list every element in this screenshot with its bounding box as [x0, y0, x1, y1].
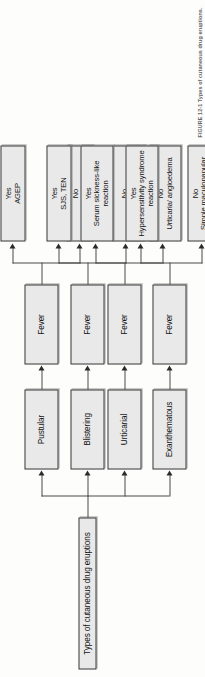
arrow-to-urticarial	[121, 470, 127, 475]
arrow-to-exanthematous	[166, 470, 172, 475]
root-node: Types of cutaneous drug eruptions	[78, 517, 96, 669]
category-node-exanthematous: Exanthematous	[152, 389, 186, 469]
arrow-yes-pustular	[9, 243, 15, 248]
fever-yes-line-pustular	[12, 247, 13, 263]
outcome-node-exanthematous-no: No Simple maculopapular eruption	[187, 145, 205, 241]
decision-label-fever-urticarial: Fever	[119, 314, 128, 334]
fever-yes-line-blistering	[58, 247, 59, 263]
fever-yes-line-urticarial	[95, 247, 96, 263]
category-node-blistering: Blistering	[70, 389, 104, 469]
fever-split-exanthematous	[140, 262, 202, 263]
arrow-to-pustular	[38, 470, 44, 475]
fever-no-line-urticarial	[162, 247, 163, 263]
fever-out-exanthematous	[169, 262, 170, 284]
outcome-text-blistering-yes: SJS, TEN	[59, 177, 68, 209]
arrow-yes-urticarial	[92, 243, 98, 248]
arrow-no-pustular	[76, 243, 82, 248]
root-trunk-horizontal	[87, 495, 88, 517]
arrow-yes-exanthematous	[137, 243, 143, 248]
fever-out-urticarial	[124, 262, 125, 284]
outcome-answer-pustular-yes: Yes	[4, 187, 13, 199]
category-label-exanthematous: Exanthematous	[164, 401, 173, 457]
decision-node-fever-blistering: Fever	[70, 284, 104, 364]
outcome-text-exanthematous-no: Simple maculopapular eruption	[199, 148, 205, 238]
arrow-to-fever-blistering	[84, 365, 90, 370]
connector-urticarial-to-fever	[124, 369, 125, 389]
root-node-label: Types of cutaneous drug eruptions	[82, 532, 91, 654]
arrow-to-fever-exanthematous	[166, 365, 172, 370]
root-trunk-vertical	[41, 495, 169, 496]
arrow-yes-blistering	[55, 243, 61, 248]
outcome-text-urticarial-no: Urticaria/ angioedema	[165, 157, 174, 229]
figure-caption: FIGURE 12-1 Types of cutaneous drug erup…	[196, 7, 202, 137]
outcome-node-blistering-yes: Yes SJS, TEN	[46, 145, 71, 241]
decision-label-fever-blistering: Fever	[82, 314, 91, 334]
arrow-no-blistering	[122, 243, 128, 248]
outcome-node-urticarial-yes: Yes Serum sickness-like reaction	[80, 145, 113, 241]
category-label-blistering: Blistering	[82, 413, 91, 446]
decision-node-fever-exanthematous: Fever	[152, 284, 186, 364]
category-label-urticarial: Urticarial	[119, 413, 128, 444]
branch-stub-urticarial	[124, 474, 125, 496]
fever-yes-line-exanthematous	[140, 247, 141, 263]
outcome-text-pustular-yes: AGEP	[13, 183, 22, 204]
connector-exanthematous-to-fever	[169, 369, 170, 389]
outcome-answer-blistering-yes: Yes	[50, 187, 59, 199]
fever-no-line-exanthematous	[201, 247, 202, 263]
category-node-urticarial: Urticarial	[107, 389, 141, 469]
decision-node-fever-urticarial: Fever	[107, 284, 141, 364]
category-label-pustular: Pustular	[36, 414, 45, 443]
arrow-no-exanthematous	[198, 243, 204, 248]
category-node-pustular: Pustular	[24, 389, 58, 469]
outcome-answer-pustular-no: No	[71, 188, 80, 198]
fever-no-line-blistering	[125, 247, 126, 263]
branch-stub-exanthematous	[169, 474, 170, 496]
arrow-no-urticarial	[159, 243, 165, 248]
decision-label-fever-pustular: Fever	[36, 314, 45, 334]
outcome-text-urticarial-yes: Serum sickness-like reaction	[92, 148, 109, 238]
outcome-node-exanthematous-yes: Yes Hypersensitivity syndrome reaction	[125, 145, 158, 241]
outcome-text-exanthematous-yes: Hypersensitivity syndrome reaction	[137, 148, 154, 238]
branch-stub-blistering	[87, 474, 88, 496]
fever-out-blistering	[87, 262, 88, 284]
connector-blistering-to-fever	[87, 369, 88, 389]
fever-no-line-pustular	[79, 247, 80, 263]
decision-label-fever-exanthematous: Fever	[164, 314, 173, 334]
arrow-to-blistering	[84, 470, 90, 475]
branch-stub-pustular	[41, 474, 42, 496]
arrow-to-fever-urticarial	[121, 365, 127, 370]
fever-out-pustular	[41, 262, 42, 284]
flowchart-canvas: Types of cutaneous drug eruptions Pustul…	[0, 0, 205, 677]
arrow-to-fever-pustular	[38, 365, 44, 370]
outcome-node-pustular-yes: Yes AGEP	[0, 145, 25, 241]
connector-pustular-to-fever	[41, 369, 42, 389]
decision-node-fever-pustular: Fever	[24, 284, 58, 364]
